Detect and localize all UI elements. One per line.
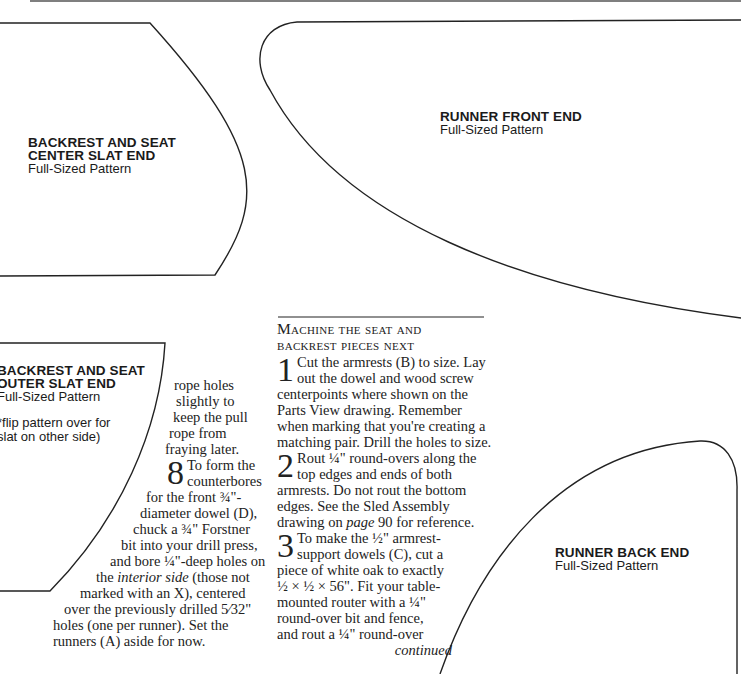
text-line: and rout a ¼" round-over xyxy=(277,626,497,642)
text-line: edges. See the Sled Assembly xyxy=(277,498,497,514)
step-number: 2 xyxy=(277,452,294,480)
section-heading-2: backrest pieces next xyxy=(277,337,497,353)
text-line: out the dowel and wood screw xyxy=(277,370,497,386)
text-line: support dowels (C), cut a xyxy=(277,546,497,562)
step-3: 3 To make the ½" armrest- support dowels… xyxy=(277,530,497,658)
text-line: and bore ¼"-deep holes on xyxy=(0,553,260,569)
text-line: drawing on page 90 for reference. xyxy=(277,514,497,530)
text-line: over the previously drilled 5⁄32" xyxy=(0,601,260,617)
text-line: matching pair. Drill the holes to size. xyxy=(277,434,497,450)
text-line: Rout ¼" round-overs along the xyxy=(277,450,497,466)
text-line: the interior side (those not xyxy=(0,569,260,585)
text-line: mounted router with a ¼" xyxy=(277,594,497,610)
text-line: bit into your drill press, xyxy=(0,537,260,553)
text-line: holes (one per runner). Set the xyxy=(0,617,260,633)
text-line: runners (A) aside for now. xyxy=(0,633,260,649)
center-slat-label: BACKREST AND SEAT CENTER SLAT END Full-S… xyxy=(28,136,176,175)
text-line: round-over bit and fence, xyxy=(277,610,497,626)
text-line: keep the pull xyxy=(0,409,260,425)
text-line: ½ × ½ × 56". Fit your table- xyxy=(277,578,497,594)
runner-back-subtitle: Full-Sized Pattern xyxy=(555,559,689,572)
step-1: 1 Cut the armrests (B) to size. Lay out … xyxy=(277,354,497,450)
runner-back-label: RUNNER BACK END Full-Sized Pattern xyxy=(555,546,689,572)
text-line: chuck a ¾" Forstner xyxy=(0,521,260,537)
center-slat-subtitle: Full-Sized Pattern xyxy=(28,162,176,175)
step-8: 8 To form the counterbores xyxy=(0,457,260,489)
runner-front-outline xyxy=(260,20,741,318)
text-line: armrests. Do not rout the bottom xyxy=(277,482,497,498)
text-line: rope from xyxy=(0,425,260,441)
right-text-column: Machine the seat and backrest pieces nex… xyxy=(277,321,497,658)
text-line: for the front ¾"- xyxy=(0,489,260,505)
text-line: Parts View drawing. Remember xyxy=(277,402,497,418)
step-number: 1 xyxy=(277,356,294,384)
text-line: Cut the armrests (B) to size. Lay xyxy=(277,354,497,370)
text-line: fraying later. xyxy=(0,441,260,457)
text-line: diameter dowel (D), xyxy=(0,505,260,521)
runner-front-subtitle: Full-Sized Pattern xyxy=(440,123,582,136)
step-number: 3 xyxy=(277,532,294,560)
runner-front-label: RUNNER FRONT END Full-Sized Pattern xyxy=(440,110,582,136)
text-line: slightly to xyxy=(0,393,260,409)
emphasis: interior side xyxy=(117,569,188,585)
text-line: top edges and ends of both xyxy=(277,466,497,482)
section-heading-1: Machine the seat and xyxy=(277,321,497,337)
step-number: 8 xyxy=(167,459,184,487)
text-line: rope holes xyxy=(0,377,260,393)
text-line: marked with an X), centered xyxy=(0,585,260,601)
continued-label: continued xyxy=(277,642,497,658)
text-line: centerpoints where shown on the xyxy=(277,386,497,402)
step-2: 2 Rout ¼" round-overs along the top edge… xyxy=(277,450,497,530)
text-line: piece of white oak to exactly xyxy=(277,562,497,578)
page-reference: page xyxy=(346,514,374,530)
text-line: To make the ½" armrest- xyxy=(277,530,497,546)
left-text-column: rope holes slightly to keep the pull rop… xyxy=(0,377,260,649)
text-line: when marking that you're creating a xyxy=(277,418,497,434)
